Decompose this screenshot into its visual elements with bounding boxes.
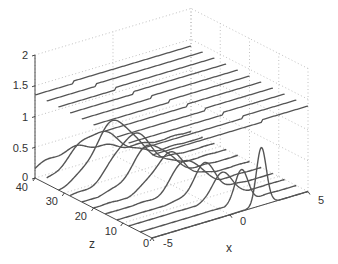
upper-line-z-16	[105, 82, 261, 131]
z-tick-40: 40	[16, 181, 28, 193]
packet-curve-z-36	[47, 131, 203, 177]
x-axis-label: x	[226, 241, 232, 255]
upper-line-z-0	[152, 106, 308, 155]
z-tick-20: 20	[75, 210, 87, 222]
z-tick-30: 30	[46, 195, 58, 207]
z-tick-10: 10	[105, 225, 117, 237]
upper-line-z-8	[129, 94, 285, 143]
v-tick-1: 1	[22, 111, 28, 123]
upper-line-z-4	[140, 100, 296, 149]
upper-line-z-20	[94, 76, 250, 125]
waterfall-3d-plot: 2 1.5 1 0.5 0 40 30 20 10 0 -5 0 5 x z	[0, 0, 338, 264]
upper-line-z-28	[70, 64, 226, 113]
z-tick-0: 0	[143, 237, 149, 249]
packet-curve-z-16	[105, 160, 261, 213]
packet-curve-z-0	[152, 148, 308, 238]
z-axis-label: z	[89, 237, 95, 251]
x-tick-5: 5	[318, 194, 324, 206]
x-tick-0: 0	[240, 215, 246, 227]
upper-line-z-24	[82, 70, 238, 119]
x-tick-neg5: -5	[163, 237, 173, 249]
upper-line-z-36	[47, 52, 203, 101]
v-tick-1-5: 1.5	[13, 79, 28, 91]
v-tick-0-5: 0.5	[13, 142, 28, 154]
v-tick-2: 2	[22, 49, 28, 61]
